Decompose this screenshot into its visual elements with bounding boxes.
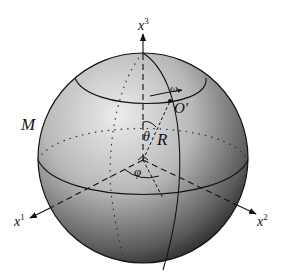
x3-label: x3	[137, 16, 149, 33]
point-o-prime	[168, 99, 172, 103]
x1-label: x1	[13, 212, 25, 229]
x2-label: x2	[256, 212, 268, 229]
omega-label: ω	[170, 82, 178, 94]
x1-axis-arrow	[30, 208, 50, 218]
o-prime-label: O′	[174, 100, 189, 116]
radius-label: R	[156, 130, 168, 149]
x2-axis-arrow	[237, 205, 256, 214]
sphere-diagram: x3 x1 x2 M O′ R θ φ ω	[0, 0, 282, 278]
manifold-label: M	[20, 115, 36, 134]
theta-label: θ	[143, 129, 150, 144]
phi-label: φ	[134, 164, 141, 179]
